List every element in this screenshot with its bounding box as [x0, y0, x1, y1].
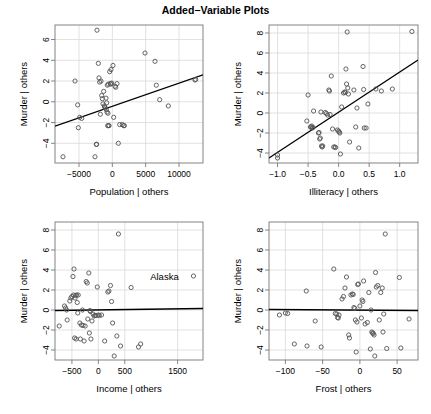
- x-tick-label: 0.0: [333, 169, 345, 179]
- gridlines: [55, 25, 203, 163]
- data-point: [57, 324, 61, 328]
- data-point: [381, 330, 385, 334]
- data-point: [95, 285, 99, 289]
- data-point: [111, 63, 115, 67]
- data-point: [379, 89, 383, 93]
- figure-canvas: Added−Variable Plots−50000500010000−4−20…: [0, 0, 431, 414]
- data-point: [397, 275, 401, 279]
- x-tick-label: 0: [358, 366, 363, 376]
- data-point: [102, 89, 106, 93]
- fit-line: [55, 75, 203, 126]
- data-point: [106, 111, 110, 115]
- data-point: [367, 290, 371, 294]
- data-point: [319, 110, 323, 114]
- point-annotation: Alaska: [150, 271, 179, 282]
- data-point: [154, 83, 158, 87]
- y-tick-label: 6: [41, 37, 51, 42]
- data-point: [72, 267, 76, 271]
- data-point: [380, 286, 384, 290]
- y-tick-label: 2: [41, 78, 51, 83]
- data-point: [340, 105, 344, 109]
- x-tick-label: 0: [110, 169, 115, 179]
- x-tick-label: 500: [118, 366, 132, 376]
- y-tick-label: 8: [255, 227, 265, 232]
- x-tick-label: −5000: [67, 169, 91, 179]
- data-point: [354, 125, 358, 129]
- data-point: [357, 146, 361, 150]
- data-point: [377, 318, 381, 322]
- data-point: [107, 289, 111, 293]
- data-point: [191, 274, 195, 278]
- data-point: [153, 59, 157, 63]
- y-tick-label: 4: [255, 70, 265, 75]
- y-tick-label: −2: [41, 325, 51, 335]
- data-point: [311, 109, 315, 113]
- x-tick-label: −500: [62, 366, 81, 376]
- data-point: [90, 319, 94, 323]
- x-tick-label: −50: [315, 366, 330, 376]
- data-point: [111, 321, 115, 325]
- x-axis-label: Income | others: [96, 383, 162, 394]
- data-point: [399, 346, 403, 350]
- y-tick-label: −2: [255, 128, 265, 138]
- data-point: [98, 112, 102, 116]
- data-point: [277, 313, 281, 317]
- data-point: [87, 271, 91, 275]
- data-point: [158, 98, 162, 102]
- data-layer: [269, 29, 418, 160]
- fit-line: [269, 60, 418, 158]
- data-point: [352, 88, 356, 92]
- data-point: [355, 106, 359, 110]
- y-axis-label: Murder | others: [232, 259, 243, 323]
- data-point: [313, 319, 317, 323]
- y-tick-label: 6: [41, 247, 51, 252]
- data-point: [354, 350, 358, 354]
- data-point: [292, 342, 296, 346]
- gridlines: [55, 222, 203, 360]
- data-point: [332, 267, 336, 271]
- y-tick-label: −4: [41, 345, 51, 355]
- y-tick-label: −4: [255, 345, 265, 355]
- data-point: [344, 275, 348, 279]
- data-point: [108, 283, 112, 287]
- y-tick-label: −2: [255, 325, 265, 335]
- data-point: [383, 232, 387, 236]
- data-point: [115, 334, 119, 338]
- data-point: [362, 87, 366, 91]
- y-tick-label: 0: [255, 110, 265, 115]
- data-point: [407, 317, 411, 321]
- data-point: [348, 140, 352, 144]
- data-point: [139, 342, 143, 346]
- data-point: [65, 318, 69, 322]
- y-tick-label: −4: [255, 148, 265, 158]
- data-point: [82, 339, 86, 343]
- y-tick-label: 6: [255, 50, 265, 55]
- y-tick-label: −4: [41, 138, 51, 148]
- data-point: [382, 312, 386, 316]
- data-point: [103, 339, 107, 343]
- x-tick-label: 0: [96, 366, 101, 376]
- x-axis-label: Population | others: [89, 186, 168, 197]
- panel-top-left: −50000500010000−4−20246Population | othe…: [18, 25, 203, 197]
- data-point: [390, 87, 394, 91]
- x-tick-label: 0.5: [363, 169, 375, 179]
- data-point: [344, 67, 348, 71]
- data-layer: [55, 28, 203, 159]
- added-variable-plots-figure: Added−Variable Plots−50000500010000−4−20…: [0, 0, 431, 414]
- data-point: [330, 127, 334, 131]
- y-axis-label: Murder | others: [18, 259, 29, 323]
- data-point: [76, 311, 80, 315]
- data-point: [362, 279, 366, 283]
- data-point: [96, 61, 100, 65]
- gridlines: [269, 222, 418, 360]
- data-layer: [55, 232, 203, 358]
- y-tick-label: 2: [255, 287, 265, 292]
- y-tick-label: 6: [255, 247, 265, 252]
- x-tick-label: 1500: [168, 366, 187, 376]
- data-point: [89, 337, 93, 341]
- panel-top-right: −1.0−0.50.00.51.0−4−202468Illiteracy | o…: [232, 25, 418, 197]
- x-tick-label: 1.0: [394, 169, 406, 179]
- x-tick-label: 10000: [167, 169, 191, 179]
- y-tick-label: −2: [41, 117, 51, 127]
- y-tick-label: 2: [255, 90, 265, 95]
